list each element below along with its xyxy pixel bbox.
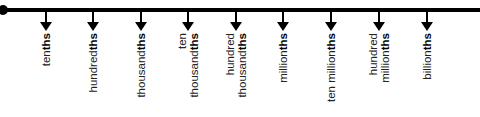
label-text: hundred: [367, 33, 379, 75]
label-suffix: ths: [135, 33, 147, 50]
label-text: ten: [40, 50, 52, 66]
arrow-down-icon: [421, 22, 433, 31]
label-line: billionths: [421, 33, 433, 80]
label-suffix: ths: [379, 33, 391, 50]
label-text: million: [277, 50, 289, 83]
label-text: thousand: [236, 50, 248, 97]
label-line: millionths: [277, 33, 289, 83]
label-text: million: [379, 50, 391, 83]
label-text: ten million: [325, 50, 337, 102]
label-suffix: ths: [40, 33, 52, 50]
label-suffix: ths: [188, 33, 200, 50]
label-line: ten millionths: [325, 33, 337, 102]
label-line: hundredths: [87, 33, 99, 92]
label-line: thousandths: [188, 33, 200, 98]
label-suffix: ths: [236, 33, 248, 50]
decimal-point-dot: [0, 5, 8, 15]
label-text: ten: [176, 33, 188, 49]
label-suffix: ths: [421, 33, 433, 50]
arrow-down-icon: [87, 22, 99, 31]
label-line: thousandths: [135, 33, 147, 98]
label-suffix: ths: [325, 33, 337, 50]
label-text: thousand: [188, 50, 200, 97]
arrow-down-icon: [40, 22, 52, 31]
arrow-down-icon: [373, 22, 385, 31]
arrow-down-icon: [277, 22, 289, 31]
label-suffix: ths: [277, 33, 289, 50]
label-line: hundred: [367, 33, 379, 75]
label-line: thousandths: [236, 33, 248, 98]
label-text: billion: [421, 50, 433, 79]
label-line: millionths: [379, 33, 391, 83]
arrow-down-icon: [182, 22, 194, 31]
label-text: hundred: [87, 50, 99, 92]
label-text: thousand: [135, 50, 147, 97]
arrow-down-icon: [135, 22, 147, 31]
label-line: ten: [176, 33, 188, 49]
label-text: hundred: [224, 33, 236, 75]
number-line: [4, 8, 480, 12]
label-suffix: ths: [87, 33, 99, 50]
arrow-down-icon: [230, 22, 242, 31]
label-line: tenths: [40, 33, 52, 66]
label-line: hundred: [224, 33, 236, 75]
arrow-down-icon: [325, 22, 337, 31]
